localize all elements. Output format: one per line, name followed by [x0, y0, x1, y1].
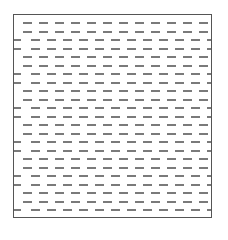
dash — [127, 116, 136, 118]
dash — [103, 56, 112, 58]
dash — [175, 209, 184, 211]
dash — [183, 31, 192, 33]
dash — [87, 90, 96, 92]
dash — [175, 82, 184, 84]
dash — [79, 209, 88, 211]
dash — [127, 82, 136, 84]
dash — [47, 116, 56, 118]
dash — [95, 39, 104, 41]
dash — [23, 31, 32, 33]
dash — [103, 31, 112, 33]
dash — [175, 48, 184, 50]
dash — [55, 133, 64, 135]
dash — [183, 56, 192, 58]
dash — [191, 39, 200, 41]
dash — [167, 56, 176, 58]
dash — [39, 90, 48, 92]
dash — [79, 48, 88, 50]
dash — [175, 39, 184, 41]
dash — [71, 167, 80, 169]
dash — [79, 107, 88, 109]
dash — [191, 150, 200, 152]
dash — [151, 99, 160, 101]
dash — [127, 73, 136, 75]
dash — [31, 175, 40, 177]
dash — [103, 192, 112, 194]
dash — [63, 150, 72, 152]
dash — [39, 31, 48, 33]
dash — [23, 56, 32, 58]
dash — [143, 150, 152, 152]
dash — [175, 107, 184, 109]
dash — [183, 65, 192, 67]
dash — [119, 133, 128, 135]
dash — [55, 158, 64, 160]
dash — [183, 90, 192, 92]
dash — [13, 107, 21, 109]
dash — [135, 22, 144, 24]
dash — [151, 158, 160, 160]
dash — [55, 56, 64, 58]
dash — [167, 22, 176, 24]
dash — [95, 150, 104, 152]
dash — [23, 192, 32, 194]
dash — [39, 167, 48, 169]
dash — [143, 141, 152, 143]
dash — [183, 192, 192, 194]
dash — [199, 31, 208, 33]
dash — [39, 124, 48, 126]
dash — [55, 167, 64, 169]
dash — [135, 90, 144, 92]
dash — [159, 107, 168, 109]
dash — [39, 65, 48, 67]
dash — [175, 150, 184, 152]
dash — [47, 175, 56, 177]
dash — [159, 48, 168, 50]
dash — [63, 116, 72, 118]
dash — [39, 22, 48, 24]
dash — [191, 141, 200, 143]
dash — [159, 175, 168, 177]
dash — [95, 141, 104, 143]
dash — [13, 116, 21, 118]
dash — [39, 192, 48, 194]
dash — [119, 201, 128, 203]
dash — [143, 73, 152, 75]
dash — [191, 73, 200, 75]
dash — [23, 158, 32, 160]
dash — [55, 22, 64, 24]
dash — [159, 73, 168, 75]
dash — [63, 48, 72, 50]
dash — [95, 82, 104, 84]
dash — [191, 116, 200, 118]
dash — [103, 22, 112, 24]
dash — [199, 22, 208, 24]
dash — [199, 158, 208, 160]
dash — [199, 65, 208, 67]
dash — [13, 150, 21, 152]
dash — [103, 133, 112, 135]
dash — [111, 141, 120, 143]
dash — [143, 184, 152, 186]
dash — [47, 82, 56, 84]
dash — [119, 65, 128, 67]
dash — [151, 22, 160, 24]
dash — [175, 73, 184, 75]
dash — [39, 56, 48, 58]
dash — [119, 124, 128, 126]
dash — [71, 192, 80, 194]
dash — [207, 184, 212, 186]
dash — [143, 209, 152, 211]
dash — [13, 39, 21, 41]
dash — [95, 175, 104, 177]
dash — [13, 184, 21, 186]
dash — [31, 116, 40, 118]
dash — [71, 56, 80, 58]
dash — [127, 107, 136, 109]
dash — [47, 150, 56, 152]
dash — [135, 31, 144, 33]
dash — [23, 167, 32, 169]
dash — [127, 150, 136, 152]
dash — [119, 90, 128, 92]
dash — [71, 31, 80, 33]
